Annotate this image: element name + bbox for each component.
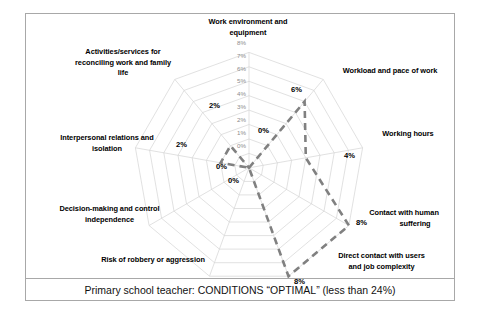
data-label-working-hours: 4% [344,152,355,160]
radial-tick-8: 8% [218,39,246,46]
chart-caption-text: Primary school teacher: CONDITIONS “OPTI… [85,284,396,296]
axis-label-line: life [48,68,198,79]
axis-label-workload-pace: Workload and pace of work [326,66,454,77]
axis-label-line: Contact with human [354,208,454,219]
radial-tick-0: 0% [218,142,246,149]
data-label-work-environment: 0% [258,127,269,135]
axis-label-line: Decision-making and control [27,204,192,215]
radial-tick-2: 2% [218,116,246,123]
axis-label-line: Activities/services for [48,47,198,58]
radial-tick-1: 1% [218,129,246,136]
axis-label-line: Working hours [364,129,452,140]
axis-label-line: Interpersonal relations and [26,133,188,144]
axis-label-work-environment: Work environment and equipment [178,17,318,38]
axis-label-contact-human-suffering: Contact with human suffering [354,208,454,229]
axis-label-line: Workload and pace of work [326,66,454,77]
data-label-workload-pace: 6% [291,86,302,94]
axis-label-line: suffering [354,219,454,230]
axis-label-line: equipment [178,28,318,39]
axis-label-line: Work environment and [178,17,318,28]
axis-label-line: Direct contact with users [314,251,449,262]
data-label-activities-services: 2% [209,102,220,110]
axis-label-line: reconciling work and family [48,58,198,69]
radial-tick-5: 5% [218,77,246,84]
data-label-decision-making: 0% [216,163,227,171]
axis-label-line: and job complexity [314,262,449,273]
radial-tick-7: 7% [218,52,246,59]
axis-label-decision-making: Decision-making and control independence [27,204,192,225]
axis-label-interpersonal-relations: Interpersonal relations and isolation [26,133,188,154]
radial-tick-3: 3% [218,103,246,110]
chart-caption: Primary school teacher: CONDITIONS “OPTI… [26,278,454,300]
chart-frame: Work environment and equipment Workload … [25,13,455,301]
axis-label-activities-services: Activities/services for reconciling work… [48,47,198,79]
radial-tick-4: 4% [218,90,246,97]
axis-label-line: isolation [26,144,188,155]
data-label-contact-human-suffering: 8% [356,219,367,227]
axis-label-line: independence [27,215,192,226]
axis-label-direct-contact-users: Direct contact with users and job comple… [314,251,449,272]
axis-label-working-hours: Working hours [364,129,452,140]
axis-label-risk-robbery: Risk of robbery or aggression [63,255,243,266]
data-label-risk-robbery: 0% [228,177,239,185]
data-label-interpersonal-relations: 2% [176,141,187,149]
radial-tick-6: 6% [218,65,246,72]
axis-label-line: Risk of robbery or aggression [63,255,243,266]
